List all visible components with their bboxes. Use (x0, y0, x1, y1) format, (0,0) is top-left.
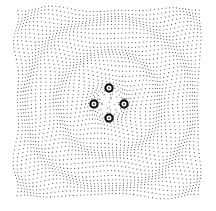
lattice-dot (122, 171, 123, 172)
lattice-dot (38, 169, 39, 170)
lattice-dot (180, 11, 181, 12)
lattice-dot (143, 96, 144, 97)
lattice-dot (59, 175, 60, 176)
lattice-dot (36, 186, 37, 187)
lattice-dot (15, 145, 16, 146)
lattice-dot (27, 195, 28, 196)
lattice-dot (74, 183, 75, 184)
lattice-dot (63, 159, 64, 160)
lattice-dot (78, 45, 79, 46)
lattice-dot (155, 193, 156, 194)
lattice-dot (73, 59, 74, 60)
lattice-dot (199, 20, 200, 21)
lattice-dot (16, 178, 17, 179)
lattice-dot (122, 193, 123, 194)
lattice-dot (199, 59, 200, 60)
lattice-dot (185, 63, 186, 64)
lattice-dot (136, 32, 137, 33)
lattice-dot (63, 109, 64, 110)
lattice-dot (145, 108, 146, 109)
lattice-dot (129, 172, 130, 173)
lattice-dot (175, 190, 176, 191)
lattice-dot (136, 104, 137, 105)
lattice-dot (108, 143, 109, 144)
lattice-dot (79, 49, 80, 50)
lattice-dot (56, 88, 57, 89)
lattice-dot (28, 76, 29, 77)
lattice-dot (173, 32, 174, 33)
lattice-dot (33, 144, 34, 145)
lattice-dot (21, 36, 22, 37)
lattice-dot (108, 183, 109, 184)
lattice-dot (23, 23, 24, 24)
lattice-dot (22, 182, 23, 183)
lattice-dot (122, 52, 123, 53)
lattice-dot (58, 105, 59, 106)
lattice-dot (171, 163, 172, 164)
lattice-dot (107, 14, 108, 15)
lattice-dot (156, 26, 157, 27)
lattice-dot (56, 113, 57, 114)
lattice-dot (87, 191, 88, 192)
lattice-dot (174, 49, 175, 50)
lattice-dot (187, 125, 188, 126)
lattice-dot (135, 62, 136, 63)
lattice-dot (94, 186, 95, 187)
lattice-dot (103, 161, 104, 162)
lattice-dot (163, 29, 164, 30)
lattice-dot (101, 133, 102, 134)
lattice-dot (25, 167, 26, 168)
lattice-dot (197, 124, 198, 125)
lattice-dot (21, 84, 22, 85)
lattice-dot (162, 148, 163, 149)
lattice-dot (109, 54, 110, 55)
lattice-dot (148, 174, 149, 175)
lattice-dot (17, 191, 18, 192)
lattice-dot (141, 129, 142, 130)
lattice-dot (190, 124, 191, 125)
lattice-dot (15, 175, 16, 176)
lattice-dot (27, 19, 28, 20)
lattice-dot (89, 119, 90, 120)
lattice-dot (157, 13, 158, 14)
lattice-dot (140, 169, 141, 170)
lattice-dot (83, 91, 84, 92)
lattice-dot (115, 18, 116, 19)
lattice-dot (140, 71, 141, 72)
lattice-dot (118, 21, 119, 22)
lattice-dot (190, 117, 191, 118)
lattice-dot (114, 165, 115, 166)
lattice-dot (179, 186, 180, 187)
lattice-dot (112, 183, 113, 184)
lattice-dot (110, 56, 111, 57)
lattice-dot (148, 192, 149, 193)
lattice-dot (71, 159, 72, 160)
lattice-dot (37, 60, 38, 61)
lattice-dot (71, 154, 72, 155)
lattice-dot (200, 161, 201, 162)
lattice-dot (83, 50, 84, 51)
lattice-dot (29, 171, 30, 172)
lattice-dot (180, 77, 181, 78)
lattice-dot (136, 75, 137, 76)
lattice-dot (188, 41, 189, 42)
lattice-dot (61, 117, 62, 118)
lattice-dot (16, 138, 17, 139)
lattice-dot (64, 124, 65, 125)
lattice-dot (161, 109, 162, 110)
lattice-dot (92, 154, 93, 155)
lattice-dot (136, 20, 137, 21)
lattice-dot (65, 20, 66, 21)
lattice-dot (121, 117, 122, 118)
lattice-dot (37, 21, 38, 22)
lattice-dot (62, 173, 63, 174)
lattice-dot (24, 119, 25, 120)
lattice-dot (67, 101, 68, 102)
lattice-dot (162, 84, 163, 85)
lattice-dot (67, 46, 68, 47)
lattice-dot (34, 151, 35, 152)
lattice-dot (154, 49, 155, 50)
lattice-dot (40, 60, 41, 61)
lattice-dot (121, 166, 122, 167)
lattice-dot (200, 26, 201, 27)
